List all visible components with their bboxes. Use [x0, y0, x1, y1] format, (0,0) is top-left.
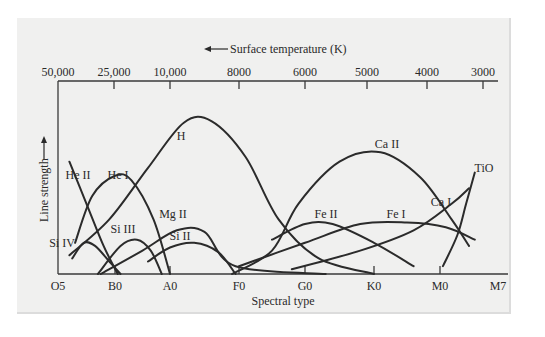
y-axis-title: Line strength: [37, 158, 51, 222]
temperature-tick-label: 4000: [415, 65, 439, 79]
curve-label-fe-ii: Fe II: [315, 207, 338, 221]
temperature-tick-label: 5000: [355, 65, 379, 79]
spectral-tick-label: A0: [163, 279, 178, 293]
spectral-tick-label: F0: [233, 279, 246, 293]
spectral-tick-label: M0: [432, 279, 449, 293]
curve-label-mg-ii: Mg II: [159, 207, 187, 221]
curve-label-si-iii: Si III: [111, 222, 136, 236]
temperature-tick-label: 3000: [471, 65, 495, 79]
temperature-arrow-head-icon: [204, 46, 211, 52]
curve-label-ca-i: Ca I: [431, 195, 451, 209]
curve-fe-i: [239, 222, 475, 266]
spectral-tick-label: K0: [367, 279, 382, 293]
curve-label-h: H: [177, 129, 186, 143]
chart-svg: Surface temperature (K) 50,00025,00010,0…: [0, 0, 545, 337]
curve-tio: [443, 173, 475, 267]
temperature-tick-label: 25,000: [98, 65, 131, 79]
temperature-axis: Surface temperature (K) 50,00025,00010,0…: [42, 42, 499, 89]
curve-label-si-iv: Si IV: [49, 236, 75, 250]
y-axis-title-group: Line strength: [37, 136, 51, 222]
temperature-axis-title: Surface temperature (K): [230, 42, 347, 56]
curve-label-ca-ii: Ca II: [375, 137, 399, 151]
temperature-tick-label: 8000: [227, 65, 251, 79]
spectral-tick-label: G0: [298, 279, 313, 293]
x-axis-title: Spectral type: [252, 294, 315, 308]
spectral-tick-label: O5: [51, 279, 66, 293]
curve-label-si-ii: Si II: [170, 229, 191, 243]
spectral-tick-label: M7: [490, 279, 507, 293]
curve-label-he-ii: He II: [66, 168, 91, 182]
y-axis-arrow-head-icon: [41, 136, 47, 143]
temperature-tick-label: 50,000: [42, 65, 75, 79]
curve-label-he-i: He I: [108, 168, 129, 182]
spectral-tick-label: B0: [108, 279, 122, 293]
curve-label-fe-i: Fe I: [387, 207, 406, 221]
temperature-tick-label: 6000: [293, 65, 317, 79]
curve-label-tio: TiO: [475, 161, 494, 175]
temperature-tick-label: 10,000: [154, 65, 187, 79]
